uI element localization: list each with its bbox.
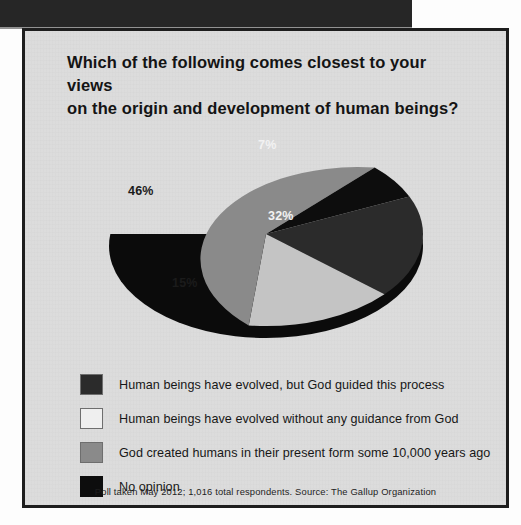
page-title: Which of the following comes closest to … <box>67 51 472 120</box>
top-banner <box>0 0 412 27</box>
source-footnote: Poll taken May 2012; 1,016 total respond… <box>25 486 506 497</box>
legend-swatch-icon <box>80 408 103 429</box>
legend-swatch-icon <box>80 442 103 463</box>
pie-label-no-opinion: 7% <box>258 138 276 152</box>
pie-label-evolved-no-guidance: 15% <box>172 276 198 290</box>
pie-label-created-present-form: 46% <box>128 184 154 198</box>
chart-legend: Human beings have evolved, but God guide… <box>80 369 500 505</box>
poll-panel: Which of the following comes closest to … <box>22 28 509 508</box>
pie-chart: 7% 32% 46% 15% <box>53 116 473 341</box>
page-root: Which of the following comes closest to … <box>0 0 521 525</box>
legend-item-created-present-form: God created humans in their present form… <box>80 437 500 468</box>
legend-item-evolved-god-guided: Human beings have evolved, but God guide… <box>80 369 500 400</box>
legend-label: God created humans in their present form… <box>119 446 490 460</box>
legend-item-evolved-no-guidance: Human beings have evolved without any gu… <box>80 403 500 434</box>
legend-swatch-icon <box>80 374 103 395</box>
pie-label-evolved-god-guided: 32% <box>268 209 294 223</box>
title-line-1: Which of the following comes closest to … <box>67 53 426 94</box>
legend-label: Human beings have evolved, but God guide… <box>119 378 444 392</box>
legend-label: Human beings have evolved without any gu… <box>119 412 459 426</box>
